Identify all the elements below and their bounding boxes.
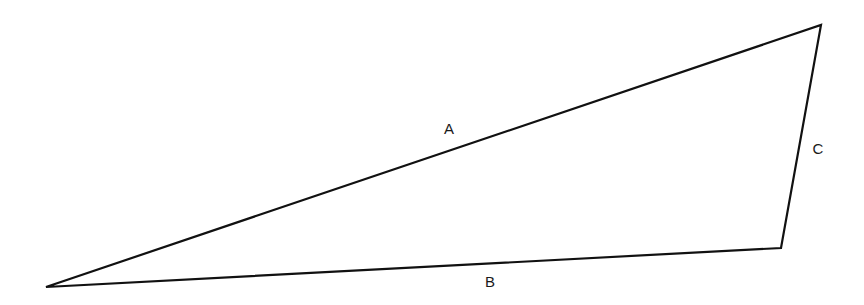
triangle-shape — [46, 25, 821, 287]
side-label-c: C — [813, 141, 824, 156]
side-label-b: B — [485, 274, 495, 289]
side-label-a: A — [444, 121, 454, 136]
triangle-diagram — [0, 0, 864, 305]
